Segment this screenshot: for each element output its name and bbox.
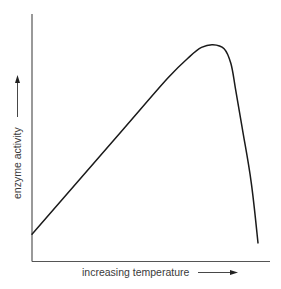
x-axis-arrow-icon bbox=[230, 270, 238, 275]
enzyme-activity-curve bbox=[32, 45, 258, 243]
y-axis-label: enzyme activity bbox=[11, 126, 23, 199]
y-axis-arrow-icon bbox=[15, 75, 20, 83]
x-axis-label: increasing temperature bbox=[82, 266, 190, 278]
enzyme-temperature-chart: increasing temperature enzyme activity bbox=[0, 0, 281, 289]
